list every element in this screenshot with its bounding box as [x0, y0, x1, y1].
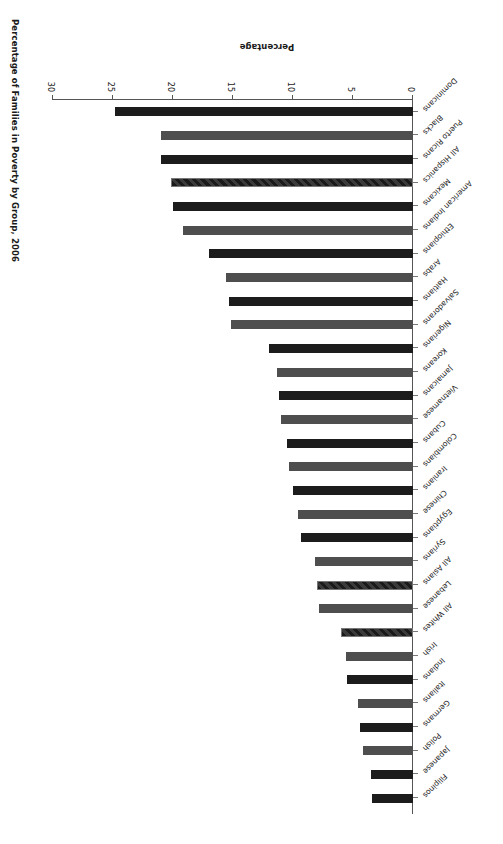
bar-koreans [277, 368, 413, 377]
bar-polish [363, 746, 413, 755]
value-tick-label: 20 [166, 82, 175, 92]
category-tick [413, 750, 418, 751]
category-tick [413, 205, 418, 206]
bar-haitians [229, 297, 413, 306]
category-tick [413, 584, 418, 585]
value-tick-label: 5 [346, 87, 355, 92]
category-tick [413, 158, 418, 159]
bar-ethiopians [209, 249, 413, 258]
category-tick [413, 702, 418, 703]
category-tick [413, 347, 418, 348]
value-tick-label: 30 [46, 82, 55, 92]
category-tick [413, 442, 418, 443]
chart-figure: Percentage of Families in Poverty by Gro… [0, 0, 503, 844]
category-tick [413, 134, 418, 135]
bar-irish [346, 652, 413, 661]
category-tick [413, 418, 418, 419]
bar-lebanese [319, 604, 413, 613]
bar-vietnamese [281, 415, 413, 424]
category-tick [413, 560, 418, 561]
category-tick [413, 229, 418, 230]
value-tick [352, 95, 353, 100]
bar-syrians [315, 557, 413, 566]
value-axis-label: Percentage [240, 42, 295, 52]
bar-egyptians [301, 533, 413, 542]
bar-iranians [293, 486, 413, 495]
value-tick [232, 95, 233, 100]
bar-indians [347, 675, 413, 684]
bar-all-asians [317, 581, 413, 590]
bar-jamaicans [279, 391, 413, 400]
value-tick [52, 95, 53, 100]
bar-filipinos [372, 794, 413, 803]
value-tick-label: 15 [226, 82, 235, 92]
category-tick [413, 182, 418, 183]
bar-mexicans [173, 202, 413, 211]
bar-american-indians [183, 226, 413, 235]
category-tick [413, 797, 418, 798]
value-tick-label: 25 [106, 82, 115, 92]
bar-nigerians [269, 344, 413, 353]
category-tick [413, 276, 418, 277]
bar-cubans [287, 439, 413, 448]
bar-all-whites [341, 628, 413, 637]
bar-chinese [298, 510, 413, 519]
bar-dominicans [115, 107, 413, 116]
category-tick [413, 371, 418, 372]
category-label: Dominicans [421, 76, 459, 114]
value-axis-line [53, 99, 413, 100]
category-tick [413, 655, 418, 656]
category-tick [413, 773, 418, 774]
bar-salvadorans [231, 320, 413, 329]
category-tick [413, 253, 418, 254]
value-tick [172, 95, 173, 100]
category-tick [413, 631, 418, 632]
category-tick [413, 466, 418, 467]
value-tick-label: 10 [286, 82, 295, 92]
bar-italians [358, 699, 413, 708]
bar-blacks [161, 131, 413, 140]
category-tick [413, 608, 418, 609]
category-tick [413, 111, 418, 112]
category-label: Irish [421, 640, 439, 658]
category-label: Filipinos [421, 772, 449, 800]
bar-arabs [226, 273, 413, 282]
category-label: Iranians [421, 465, 449, 493]
value-tick [292, 95, 293, 100]
bar-japanese [371, 770, 413, 779]
category-tick [413, 537, 418, 538]
plot-area: Percentage 051015202530DominicansBlacksP… [0, 0, 503, 844]
category-tick [413, 300, 418, 301]
category-label: Indians [421, 656, 447, 682]
bar-germans [360, 723, 413, 732]
category-tick [413, 489, 418, 490]
category-tick [413, 679, 418, 680]
bar-puerto-ricans [161, 155, 413, 164]
bar-colombians [289, 462, 413, 471]
value-tick-label: 0 [406, 87, 415, 92]
category-tick [413, 324, 418, 325]
category-tick [413, 513, 418, 514]
category-tick [413, 395, 418, 396]
category-tick [413, 726, 418, 727]
value-tick [412, 95, 413, 100]
value-tick [112, 95, 113, 100]
bar-all-hispanics [171, 178, 413, 187]
